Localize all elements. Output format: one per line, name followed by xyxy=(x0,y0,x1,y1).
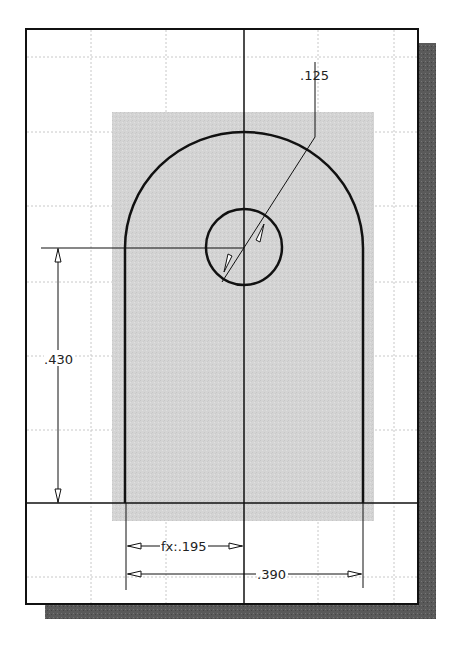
dimension-label-hole-diameter[interactable]: .125 xyxy=(300,68,329,83)
sketch-canvas[interactable]: .430 .125 fx:.195 .390 xyxy=(0,0,452,649)
dimension-label-overall-width[interactable]: .390 xyxy=(257,567,286,582)
dimension-label-half-width[interactable]: fx:.195 xyxy=(161,539,207,554)
dimension-label-center-height[interactable]: .430 xyxy=(44,352,73,367)
